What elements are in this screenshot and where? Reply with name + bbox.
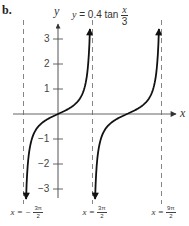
panel-label: b. xyxy=(2,3,12,18)
title-eq: = 0.4 tan xyxy=(79,9,118,20)
asymptote-label: x = 3π2 xyxy=(82,205,106,220)
title-lhs: y xyxy=(72,9,76,20)
y-tick-label: 1 xyxy=(44,83,50,94)
title-fraction: x 3 xyxy=(121,4,127,27)
asymptote-label: x = 9π2 xyxy=(151,205,175,220)
x-axis-label: x xyxy=(180,106,185,121)
y-tick-label: −1 xyxy=(38,133,49,144)
asymptote-lines xyxy=(24,20,162,204)
y-axis-label: y xyxy=(54,4,59,19)
tangent-graph xyxy=(0,0,189,226)
y-tick-label: −2 xyxy=(38,158,49,169)
asymptote-label: x = − 3π2 xyxy=(11,205,43,220)
y-tick-label: 2 xyxy=(44,58,50,69)
y-tick-label: −3 xyxy=(38,183,49,194)
y-tick-label: 3 xyxy=(44,33,50,44)
function-title: y = 0.4 tan x 3 xyxy=(72,4,128,27)
